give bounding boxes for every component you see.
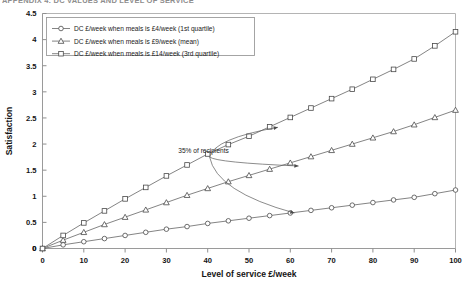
x-tick-label: 50 bbox=[245, 256, 253, 265]
marker-square bbox=[226, 142, 231, 147]
x-tick-label: 90 bbox=[410, 256, 418, 265]
annotation-layer: 35% of recipients bbox=[178, 126, 298, 214]
marker-triangle bbox=[453, 107, 459, 112]
marker-square bbox=[371, 77, 376, 82]
line-chart: 00.511.522.533.544.50 010203040506070809… bbox=[0, 0, 469, 282]
marker-square bbox=[453, 29, 458, 34]
marker-circle bbox=[61, 243, 66, 248]
marker-square bbox=[143, 185, 148, 190]
x-tick-label: 60 bbox=[286, 256, 294, 265]
x-tick-label: 70 bbox=[327, 256, 335, 265]
series-2 bbox=[40, 107, 459, 251]
y-tick-label: 2 bbox=[32, 140, 36, 149]
marker-circle bbox=[185, 224, 190, 229]
legend-item-1[interactable]: DC £/week when meals is £4/week (1st qua… bbox=[52, 25, 215, 33]
marker-square bbox=[40, 246, 45, 251]
marker-circle bbox=[371, 200, 376, 205]
marker-square bbox=[329, 96, 334, 101]
marker-circle bbox=[309, 208, 314, 213]
marker-square bbox=[412, 57, 417, 62]
x-axis-ticks: 0102030405060708090100 bbox=[40, 249, 461, 265]
marker-circle bbox=[329, 205, 334, 210]
y-axis-title: Satisfaction bbox=[4, 107, 14, 156]
legend-label: DC £/week when meals is £9/week (mean) bbox=[74, 38, 199, 46]
marker-circle bbox=[123, 233, 128, 238]
marker-square bbox=[185, 163, 190, 168]
y-tick-label: 1 bbox=[32, 192, 37, 201]
legend: DC £/week when meals is £4/week (1st qua… bbox=[47, 18, 255, 59]
x-tick-label: 30 bbox=[162, 256, 170, 265]
x-tick-label: 0 bbox=[40, 256, 44, 265]
x-tick-label: 80 bbox=[369, 256, 377, 265]
x-tick-label: 40 bbox=[203, 256, 211, 265]
marker-circle bbox=[82, 239, 87, 244]
y-tick-label: 0.5 bbox=[26, 218, 37, 227]
marker-square bbox=[164, 174, 169, 179]
legend-item-3[interactable]: DC £/week when meals is £14/week (3rd qu… bbox=[52, 50, 219, 58]
marker-square bbox=[59, 51, 64, 56]
marker-circle bbox=[143, 230, 148, 235]
y-tick-label: 3 bbox=[32, 88, 36, 97]
legend-label: DC £/week when meals is £4/week (1st qua… bbox=[74, 25, 215, 33]
marker-circle bbox=[350, 203, 355, 208]
legend-label: DC £/week when meals is £14/week (3rd qu… bbox=[74, 50, 219, 58]
marker-circle bbox=[59, 26, 64, 31]
series-1 bbox=[40, 188, 458, 251]
marker-circle bbox=[226, 219, 231, 224]
marker-square bbox=[288, 115, 293, 120]
x-tick-label: 10 bbox=[80, 256, 88, 265]
marker-square bbox=[309, 106, 314, 111]
marker-circle bbox=[267, 213, 272, 218]
marker-circle bbox=[391, 198, 396, 203]
y-tick-label: 3.5 bbox=[26, 62, 37, 71]
y-axis-ticks: 00.511.522.533.544.50 bbox=[26, 9, 47, 253]
marker-circle bbox=[433, 191, 438, 196]
marker-square bbox=[61, 233, 66, 238]
chart-page: APPENDIX 4: DC VALUES AND LEVEL OF SERVI… bbox=[0, 0, 469, 282]
series-layer bbox=[40, 29, 459, 250]
marker-circle bbox=[453, 188, 458, 193]
marker-circle bbox=[102, 236, 107, 241]
marker-square bbox=[391, 67, 396, 72]
legend-item-2[interactable]: DC £/week when meals is £9/week (mean) bbox=[52, 38, 199, 46]
x-axis-title: Level of service £/week bbox=[201, 269, 296, 279]
marker-square bbox=[123, 197, 128, 202]
legend-items: DC £/week when meals is £4/week (1st qua… bbox=[52, 25, 219, 58]
y-tick-label: 2.5 bbox=[26, 114, 37, 123]
annotation-arrowhead bbox=[273, 126, 278, 130]
marker-square bbox=[102, 209, 107, 214]
annotation-label: 35% of recipients bbox=[178, 147, 229, 155]
annotation-arrowhead bbox=[294, 164, 298, 168]
marker-circle bbox=[247, 216, 252, 221]
y-tick-label: 4 bbox=[32, 35, 37, 44]
marker-square bbox=[350, 87, 355, 92]
marker-square bbox=[433, 44, 438, 49]
y-tick-label: 4.5 bbox=[26, 9, 37, 18]
x-tick-label: 20 bbox=[121, 256, 129, 265]
y-tick-label: 1.5 bbox=[26, 166, 37, 175]
marker-square bbox=[82, 221, 87, 226]
marker-circle bbox=[205, 221, 210, 226]
marker-square bbox=[247, 134, 252, 139]
marker-circle bbox=[164, 227, 169, 232]
x-tick-label: 100 bbox=[449, 256, 462, 265]
y-tick-label-zero: 0 bbox=[32, 244, 36, 253]
marker-circle bbox=[412, 195, 417, 200]
